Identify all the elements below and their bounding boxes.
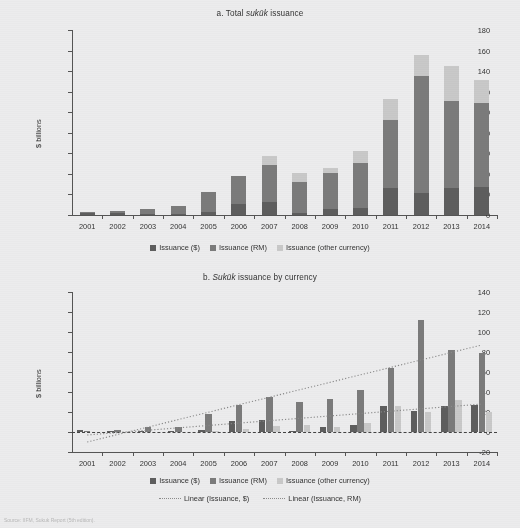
x-tick-mark: [224, 215, 225, 219]
bar-stack-2009[interactable]: [323, 30, 338, 215]
chart-b-y-axis: [72, 292, 73, 452]
bar-usd-2001[interactable]: [77, 430, 84, 432]
x-tick-mark: [254, 452, 255, 456]
bar-stack-2012[interactable]: [414, 30, 429, 215]
legend-label-other: Issuance (other currency): [286, 243, 370, 252]
x-tick-mark: [376, 215, 377, 219]
bar-stack-2006[interactable]: [231, 30, 246, 215]
bar-segment-rm: [474, 103, 489, 187]
bar-segment-rm: [292, 182, 307, 213]
bar-other-2008[interactable]: [304, 425, 311, 433]
x-tick-label-2013: 2013: [435, 459, 467, 468]
bar-usd-2003[interactable]: [138, 431, 145, 432]
bar-segment-usd: [201, 212, 216, 215]
bar-stack-2005[interactable]: [201, 30, 216, 215]
bar-stack-2004[interactable]: [171, 30, 186, 215]
x-tick-label-2009: 2009: [314, 222, 346, 231]
y-tick-label: 140: [478, 288, 490, 297]
bar-usd-2008[interactable]: [289, 431, 296, 433]
x-tick-mark: [285, 452, 286, 456]
bar-other-2010[interactable]: [364, 423, 371, 432]
bar-usd-2002[interactable]: [107, 431, 114, 433]
bar-rm-2004[interactable]: [175, 427, 182, 432]
bar-other-2013[interactable]: [455, 400, 462, 432]
bar-rm-2008[interactable]: [296, 402, 303, 432]
bar-other-2014[interactable]: [486, 412, 493, 433]
x-tick-label-2014: 2014: [466, 222, 498, 231]
bar-stack-2014[interactable]: [474, 30, 489, 215]
bar-rm-2002[interactable]: [114, 430, 121, 432]
bar-segment-rm: [383, 120, 398, 188]
bar-segment-rm: [444, 101, 459, 188]
x-tick-mark: [133, 452, 134, 456]
x-tick-mark: [497, 452, 498, 456]
bar-rm-2006[interactable]: [236, 405, 243, 432]
legend-item-rm-b: Issuance (RM): [210, 476, 267, 485]
x-tick-label-2003: 2003: [132, 222, 164, 231]
bar-stack-2008[interactable]: [292, 30, 307, 215]
x-tick-mark: [436, 452, 437, 456]
bar-usd-2009[interactable]: [320, 427, 327, 433]
bar-usd-2005[interactable]: [198, 430, 205, 433]
x-tick-label-2007: 2007: [253, 459, 285, 468]
bar-usd-2014[interactable]: [471, 405, 478, 432]
bar-usd-2011[interactable]: [380, 406, 387, 432]
bar-rm-2012[interactable]: [418, 320, 425, 432]
y-tick-mark: [68, 352, 72, 353]
bar-usd-2004[interactable]: [168, 431, 175, 432]
x-tick-mark: [102, 215, 103, 219]
bar-rm-2009[interactable]: [327, 399, 334, 433]
bar-segment-rm: [353, 163, 368, 208]
bar-rm-2003[interactable]: [145, 427, 152, 432]
y-tick-mark: [68, 51, 72, 52]
bar-stack-2011[interactable]: [383, 30, 398, 215]
bar-rm-2005[interactable]: [205, 414, 212, 433]
chart-a-plot-area: 020406080100120140160180 200120022003200…: [72, 30, 497, 215]
bar-usd-2007[interactable]: [259, 420, 266, 433]
bar-usd-2010[interactable]: [350, 425, 357, 432]
y-tick-mark: [68, 392, 72, 393]
bar-rm-2001[interactable]: [84, 431, 91, 432]
y-tick-label: -20: [479, 448, 490, 457]
x-tick-mark: [467, 452, 468, 456]
bar-stack-2002[interactable]: [110, 30, 125, 215]
bar-rm-2014[interactable]: [479, 353, 486, 432]
bar-other-2005[interactable]: [212, 431, 219, 432]
chart-b-trend-legend: Linear (Issuance, $) Linear (Issuance, R…: [0, 494, 520, 503]
bar-usd-2012[interactable]: [411, 411, 418, 432]
bar-other-2006[interactable]: [243, 429, 250, 433]
bar-segment-usd: [292, 213, 307, 215]
bar-rm-2013[interactable]: [448, 350, 455, 433]
bar-other-2012[interactable]: [425, 412, 432, 432]
bar-segment-other: [414, 55, 429, 77]
x-tick-label-2008: 2008: [284, 222, 316, 231]
chart-a-y-axis-label: $ billions: [34, 119, 43, 148]
legend-label-trend-rm: Linear (Issuance, RM): [288, 494, 361, 503]
chart-b-y-axis-label: $ billions: [34, 369, 43, 398]
bar-other-2009[interactable]: [334, 427, 341, 433]
bar-stack-2013[interactable]: [444, 30, 459, 215]
bar-stack-2010[interactable]: [353, 30, 368, 215]
bar-usd-2013[interactable]: [441, 406, 448, 432]
bar-stack-2007[interactable]: [262, 30, 277, 215]
x-tick-label-2011: 2011: [375, 222, 407, 231]
bar-segment-usd: [262, 202, 277, 215]
bar-segment-usd: [353, 208, 368, 215]
bar-usd-2006[interactable]: [229, 421, 236, 432]
bar-rm-2011[interactable]: [388, 368, 395, 433]
bar-segment-other: [292, 173, 307, 182]
x-tick-label-2006: 2006: [223, 459, 255, 468]
bar-segment-usd: [231, 204, 246, 215]
bar-rm-2007[interactable]: [266, 397, 273, 433]
bar-segment-usd: [383, 188, 398, 215]
bar-stack-2003[interactable]: [140, 30, 155, 215]
x-tick-label-2006: 2006: [223, 222, 255, 231]
x-tick-label-2002: 2002: [102, 459, 134, 468]
bar-stack-2001[interactable]: [80, 30, 95, 215]
x-tick-mark: [406, 215, 407, 219]
legend-label-trend-usd: Linear (Issuance, $): [184, 494, 249, 503]
bar-rm-2010[interactable]: [357, 390, 364, 432]
bar-other-2011[interactable]: [395, 406, 402, 433]
bar-other-2007[interactable]: [273, 426, 280, 433]
x-tick-label-2010: 2010: [344, 222, 376, 231]
